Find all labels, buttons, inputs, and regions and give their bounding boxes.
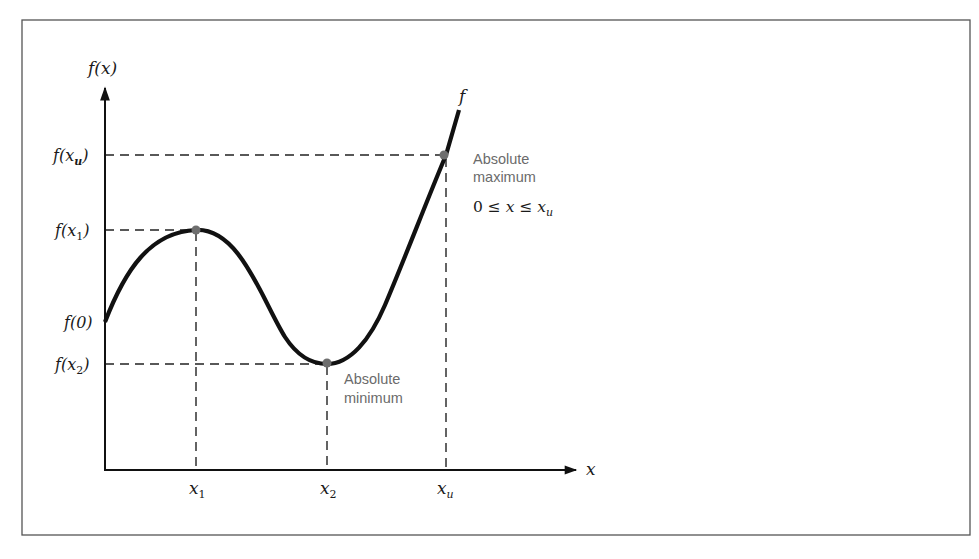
function-curve — [105, 110, 459, 364]
annotation-domain: 0 ≤ x ≤ xu — [473, 198, 553, 219]
y-tick-f-x1: f(x1) — [54, 221, 89, 243]
figure-frame — [22, 20, 970, 535]
annotation-absolute-minimum-line2: minimum — [344, 390, 403, 406]
curve-label-f: f — [457, 86, 468, 106]
y-tick-f-0: f(0) — [63, 313, 93, 332]
annotation-absolute-minimum-line1: Absolute — [344, 371, 400, 387]
point-absolute-min-x2 — [323, 359, 332, 368]
x-tick-x1: x1 — [189, 478, 206, 501]
y-axis-label: f(x) — [86, 58, 117, 78]
annotation-absolute-maximum-line1: Absolute — [473, 151, 529, 167]
x-tick-x2: x2 — [320, 478, 337, 501]
point-absolute-max-xu — [440, 151, 449, 160]
annotation-absolute-maximum-line2: maximum — [473, 169, 536, 185]
x-tick-xu: xu — [437, 478, 454, 501]
point-local-max-x1 — [192, 226, 201, 235]
extrema-diagram: f(x) x f f(xu) f(x1) f(0) f(x2) x1 x2 xu… — [0, 0, 979, 559]
guide-lines — [105, 155, 446, 470]
x-axis-label: x — [586, 459, 596, 479]
y-tick-f-x2: f(x2) — [54, 355, 89, 377]
y-tick-f-xu: f(xu) — [52, 146, 88, 168]
